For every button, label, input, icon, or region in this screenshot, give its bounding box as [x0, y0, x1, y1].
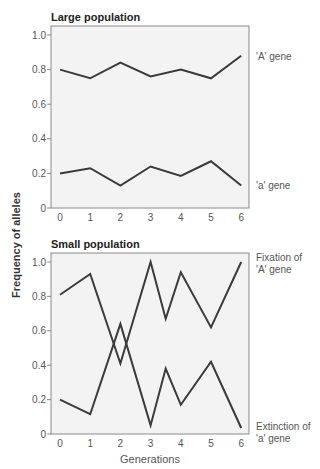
- y-tick-label: 0.2: [32, 168, 46, 179]
- top-y-axis: 00.20.40.60.81.0: [32, 30, 51, 214]
- bottom-chart-title: Small population: [51, 238, 140, 250]
- x-tick-label: 0: [57, 438, 63, 449]
- top-A-gene-label: 'A' gene: [256, 51, 292, 62]
- y-tick-label: 0.8: [32, 291, 46, 302]
- fixation-label-line2: 'A' gene: [256, 264, 292, 275]
- top-plot-area: [51, 26, 249, 208]
- y-tick-label: 1.0: [32, 30, 46, 41]
- x-tick-label: 4: [178, 212, 184, 223]
- extinction-label-line2: 'a' gene: [256, 433, 291, 444]
- y-tick-label: 0.2: [32, 394, 46, 405]
- extinction-label-line1: Extinction of: [256, 421, 311, 432]
- top-chart-title: Large population: [51, 11, 141, 23]
- x-tick-label: 0: [57, 212, 63, 223]
- y-tick-label: 0.4: [32, 360, 46, 371]
- y-tick-label: 1.0: [32, 257, 46, 268]
- y-tick-label: 0: [40, 429, 46, 440]
- bottom-x-axis: 0123456: [57, 438, 244, 449]
- fixation-label-line1: Fixation of: [256, 252, 302, 263]
- x-tick-label: 2: [118, 212, 124, 223]
- bottom-y-axis: 00.20.40.60.81.0: [32, 257, 51, 440]
- y-tick-label: 0.6: [32, 99, 46, 110]
- y-tick-label: 0.8: [32, 64, 46, 75]
- y-tick-label: 0: [40, 203, 46, 214]
- top-x-axis: 0123456: [57, 212, 244, 223]
- x-tick-label: 4: [178, 438, 184, 449]
- x-tick-label: 1: [87, 212, 93, 223]
- x-axis-label: Generations: [120, 453, 180, 465]
- x-tick-label: 5: [208, 212, 214, 223]
- x-tick-label: 3: [148, 212, 154, 223]
- y-tick-label: 0.6: [32, 325, 46, 336]
- x-tick-label: 6: [238, 212, 244, 223]
- x-tick-label: 5: [208, 438, 214, 449]
- x-tick-label: 1: [87, 438, 93, 449]
- x-tick-label: 6: [238, 438, 244, 449]
- x-tick-label: 3: [148, 438, 154, 449]
- allele-frequency-chart: Large population 00.20.40.60.81.0 012345…: [0, 0, 320, 469]
- y-axis-label: Frequency of alleles: [10, 192, 22, 298]
- x-tick-label: 2: [118, 438, 124, 449]
- y-tick-label: 0.4: [32, 133, 46, 144]
- top-a-gene-label: 'a' gene: [256, 180, 291, 191]
